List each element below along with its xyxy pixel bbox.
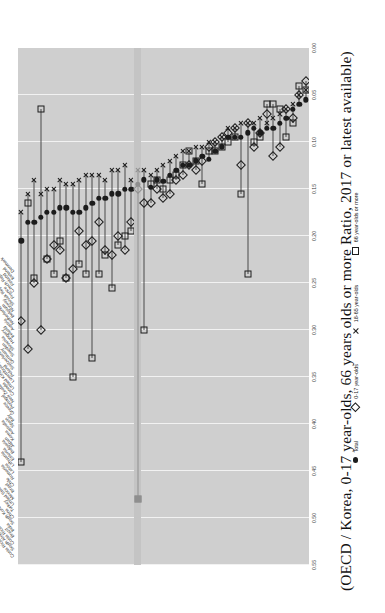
data-point-total bbox=[38, 215, 43, 220]
data-point-y1865 bbox=[232, 125, 238, 131]
data-point-y1865 bbox=[154, 167, 160, 173]
data-point-total bbox=[31, 219, 36, 224]
data-point-total bbox=[70, 210, 75, 215]
open-square-icon bbox=[352, 247, 359, 254]
data-point-y66 bbox=[302, 87, 309, 94]
filled-circle-icon bbox=[353, 457, 359, 463]
data-point-y1865 bbox=[257, 116, 263, 122]
data-point-total bbox=[161, 179, 166, 184]
data-point-y1865 bbox=[51, 186, 57, 192]
chart-legend: Total0-17 year-olds18-65 year-olds66 yea… bbox=[352, 193, 359, 463]
data-point-total bbox=[90, 200, 95, 205]
data-point-total bbox=[297, 102, 302, 107]
x-tick-label: 0.40 bbox=[311, 419, 317, 429]
range-connector bbox=[79, 180, 80, 265]
legend-label: 66 year-olds or more bbox=[353, 193, 359, 243]
legend-item-y017[interactable]: 0-17 year-olds bbox=[352, 364, 359, 411]
data-point-total bbox=[19, 238, 24, 243]
data-point-y1865 bbox=[44, 186, 50, 192]
data-point-y1865 bbox=[283, 106, 289, 112]
x-tick-label: 0.10 bbox=[311, 137, 317, 147]
plot-inner bbox=[18, 48, 309, 565]
data-point-y1865 bbox=[173, 153, 179, 159]
range-connector bbox=[144, 170, 145, 330]
data-point-total bbox=[271, 125, 276, 130]
legend-item-total[interactable]: Total bbox=[353, 441, 359, 463]
data-point-y1865 bbox=[25, 191, 31, 197]
data-point-total bbox=[277, 121, 282, 126]
x-axis: 0.000.050.100.150.200.250.300.350.400.45… bbox=[311, 48, 327, 565]
figure-canvas: (OECD / Korea, 0-17 year-olds, 66 years … bbox=[0, 0, 385, 613]
data-point-total bbox=[77, 210, 82, 215]
data-point-y1865 bbox=[160, 163, 166, 169]
category-axis: Costa Rica (latest available)South Afric… bbox=[0, 48, 18, 565]
data-point-total bbox=[245, 130, 250, 135]
x-tick-label: 0.55 bbox=[311, 560, 317, 570]
data-point-y1865 bbox=[122, 163, 128, 169]
range-connector bbox=[247, 123, 248, 273]
data-point-total bbox=[206, 156, 211, 161]
data-point-y1865 bbox=[96, 172, 102, 178]
range-connector bbox=[27, 194, 28, 349]
x-tick-label: 0.50 bbox=[311, 513, 317, 523]
data-point-total bbox=[303, 97, 308, 102]
x-tick-label: 0.25 bbox=[311, 278, 317, 288]
data-point-y1865 bbox=[245, 120, 251, 126]
x-tick-label: 0.20 bbox=[311, 231, 317, 241]
legend-item-y1865[interactable]: 18-65 year-olds bbox=[352, 285, 359, 334]
range-connector bbox=[241, 123, 242, 194]
data-point-total bbox=[96, 196, 101, 201]
range-connector bbox=[47, 189, 48, 260]
data-point-y1865 bbox=[38, 191, 44, 197]
data-point-total bbox=[44, 210, 49, 215]
legend-label: 18-65 year-olds bbox=[353, 285, 359, 322]
data-point-y1865 bbox=[251, 120, 257, 126]
data-point-total bbox=[64, 205, 69, 210]
range-connector bbox=[21, 213, 22, 462]
data-point-y1865 bbox=[128, 177, 134, 183]
x-cross-icon bbox=[352, 327, 359, 334]
data-point-y1865 bbox=[167, 158, 173, 164]
range-connector bbox=[137, 170, 138, 499]
data-point-total bbox=[141, 177, 146, 182]
data-point-total bbox=[57, 205, 62, 210]
range-connector bbox=[53, 189, 54, 274]
plot-area bbox=[18, 48, 309, 565]
data-point-y1865 bbox=[109, 167, 115, 173]
range-connector bbox=[111, 170, 112, 288]
x-tick-label: 0.00 bbox=[311, 43, 317, 53]
chart-row bbox=[303, 48, 309, 565]
data-point-y1865 bbox=[141, 167, 147, 173]
data-point-y017 bbox=[301, 76, 309, 86]
data-point-total bbox=[109, 191, 114, 196]
data-point-y1865 bbox=[135, 167, 141, 173]
data-point-y1865 bbox=[89, 172, 95, 178]
data-point-y1865 bbox=[18, 210, 24, 216]
legend-item-y66[interactable]: 66 year-olds or more bbox=[352, 193, 359, 255]
data-point-total bbox=[51, 210, 56, 215]
x-tick-label: 0.45 bbox=[311, 466, 317, 476]
data-point-total bbox=[25, 219, 30, 224]
data-point-y1865 bbox=[70, 181, 76, 187]
data-point-y1865 bbox=[31, 177, 37, 183]
range-connector bbox=[105, 180, 106, 255]
data-point-y1865 bbox=[270, 116, 276, 122]
legend-label: 0-17 year-olds bbox=[353, 364, 359, 398]
x-tick-label: 0.05 bbox=[311, 90, 317, 100]
x-tick-label: 0.30 bbox=[311, 325, 317, 335]
data-point-y1865 bbox=[264, 120, 270, 126]
range-connector bbox=[34, 180, 35, 283]
data-point-y1865 bbox=[115, 167, 121, 173]
data-point-total bbox=[122, 186, 127, 191]
range-connector bbox=[66, 184, 67, 278]
data-point-y1865 bbox=[76, 177, 82, 183]
legend-label: Total bbox=[353, 441, 359, 452]
data-point-y1865 bbox=[102, 177, 108, 183]
data-point-total bbox=[116, 191, 121, 196]
data-point-total bbox=[83, 205, 88, 210]
x-tick-label: 0.35 bbox=[311, 372, 317, 382]
data-point-y1865 bbox=[63, 181, 69, 187]
open-diamond-icon bbox=[350, 402, 360, 412]
range-connector bbox=[85, 175, 86, 274]
data-point-y1865 bbox=[290, 101, 296, 107]
